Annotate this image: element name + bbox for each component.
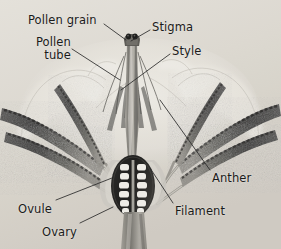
flower-anatomy-diagram: Pollen grainStigmaPollen tubeStyleAnther… (0, 0, 281, 249)
label-style: Style (172, 45, 201, 58)
label-filament: Filament (175, 205, 225, 218)
label-stigma: Stigma (152, 21, 193, 34)
label-pollen-grain: Pollen grain (28, 14, 97, 27)
label-layer: Pollen grainStigmaPollen tubeStyleAnther… (0, 0, 281, 249)
label-ovule: Ovule (18, 203, 52, 216)
label-anther: Anther (212, 172, 251, 185)
label-pollen-tube: Pollen tube (36, 36, 71, 62)
label-ovary: Ovary (42, 226, 77, 239)
